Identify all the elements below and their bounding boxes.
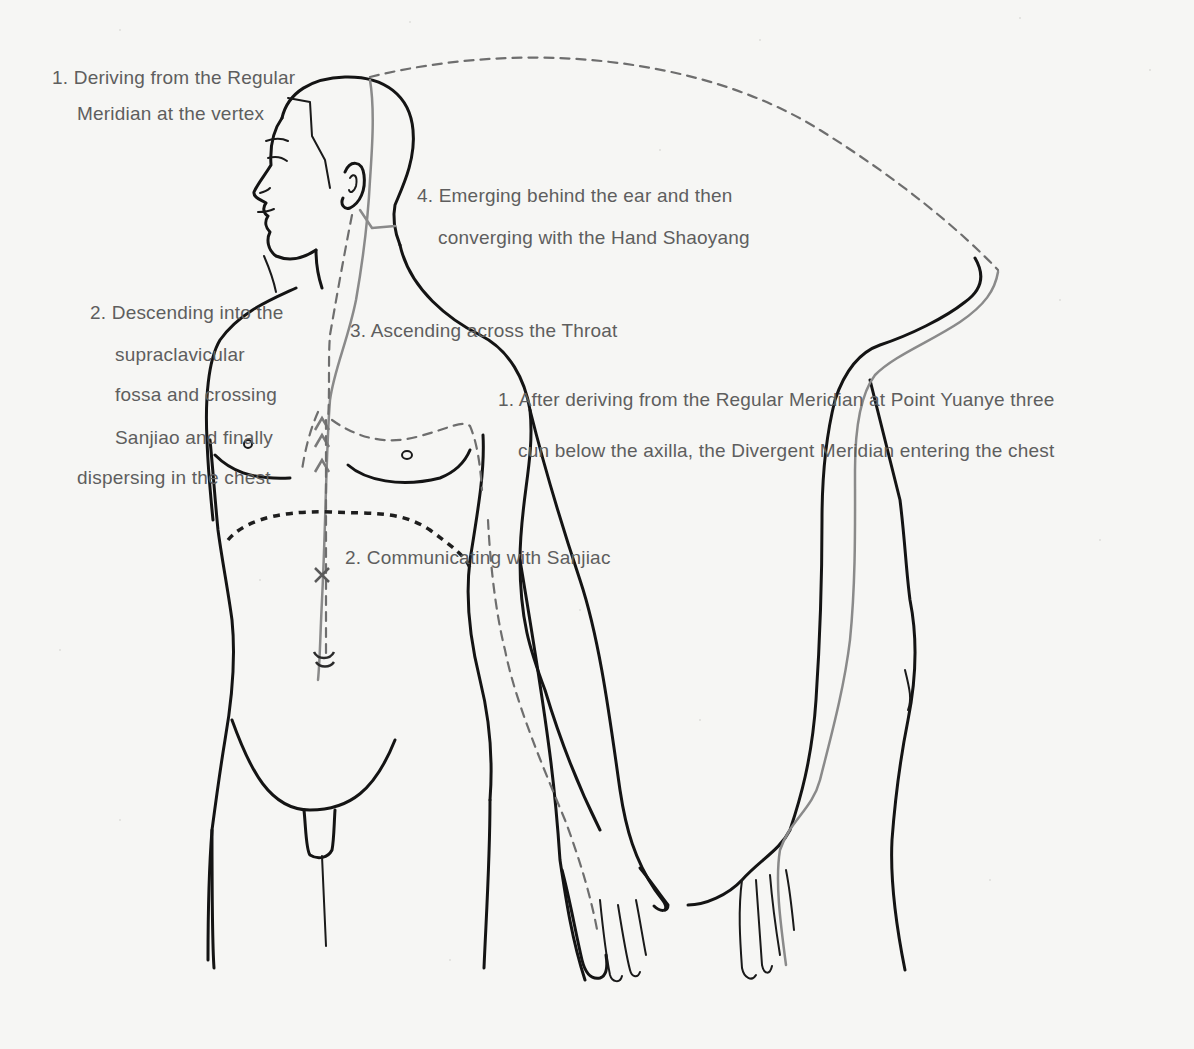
label-descending-line3: fossa and crossing [115,384,277,406]
label-descending-line2: supraclavicular [115,344,245,366]
label-axilla-line2: cun below the axilla, the Divergent Meri… [518,440,1054,462]
label-axilla-line1: 1. After deriving from the Regular Merid… [498,389,1055,411]
label-ear-line1: 4. Emerging behind the ear and then [417,185,732,207]
label-vertex-line1: 1. Deriving from the Regular [52,67,295,89]
label-throat: 3. Ascending across the Throat [350,320,618,342]
left-hand-outline [562,868,668,981]
paper-texture [59,17,1151,961]
label-descending-line1: 2. Descending into the [90,302,283,324]
label-ear-line2: converging with the Hand Shaoyang [438,227,750,249]
label-vertex-line2: Meridian at the vertex [77,103,264,125]
label-descending-line5: dispersing in the chest [77,467,271,489]
label-descending-line4: Sanjiao and finally [115,427,273,449]
label-sanjiao: 2. Communicating with Sanjiac [345,547,611,569]
head-outline [254,77,413,292]
torso-outline [206,245,665,980]
raised-arm-outline [688,258,981,979]
meridian-diagram [0,0,1194,1049]
